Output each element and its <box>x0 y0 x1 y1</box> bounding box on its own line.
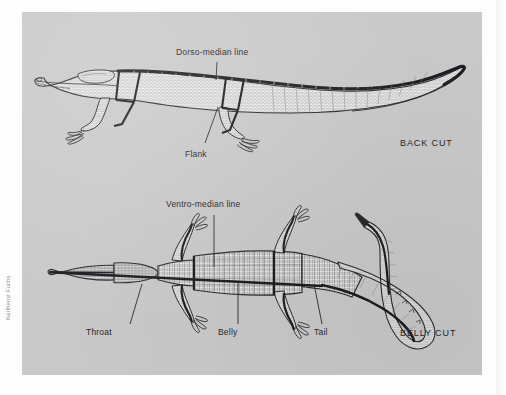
label-back-cut: BACK CUT <box>400 139 453 148</box>
photo-credit: Karlheinz Fuchs <box>2 308 14 320</box>
label-flank: Flank <box>185 150 207 159</box>
label-belly: Belly <box>218 328 237 337</box>
label-ventro-median-line: Ventro-median line <box>166 200 240 209</box>
leader-flank <box>205 107 218 143</box>
label-tail: Tail <box>314 328 328 337</box>
leader-throat <box>130 284 142 324</box>
scanned-page: Dorso-median line Flank BACK CUT Ventro-… <box>0 0 506 395</box>
page-edge-shadow <box>496 0 506 395</box>
illustration-plate: Dorso-median line Flank BACK CUT Ventro-… <box>22 12 482 375</box>
leader-tail <box>314 284 322 324</box>
back-cut-figure <box>22 12 482 375</box>
label-dorso-median-line: Dorso-median line <box>176 48 248 57</box>
label-belly-cut: BELLY CUT <box>400 329 456 338</box>
label-throat: Throat <box>86 328 112 337</box>
